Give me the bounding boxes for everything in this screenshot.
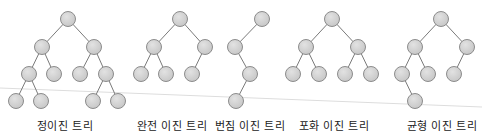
tree-node — [364, 67, 379, 82]
tree-node — [34, 94, 49, 109]
tree-complete-nodes — [134, 12, 213, 82]
edges-layer — [16, 19, 467, 101]
tree-node — [395, 67, 410, 82]
tree-node — [147, 40, 162, 55]
tree-node — [73, 67, 88, 82]
tree-label-full: 정이진 트리 — [37, 117, 94, 133]
tree-full-nodes — [9, 12, 126, 109]
tree-node — [229, 94, 244, 109]
tree-node — [408, 40, 423, 55]
tree-node — [159, 67, 174, 82]
tree-node — [312, 67, 327, 82]
tree-node — [421, 67, 436, 82]
tree-node — [99, 67, 114, 82]
tree-node — [185, 67, 200, 82]
tree-node — [47, 67, 62, 82]
tree-node — [86, 94, 101, 109]
tree-node — [351, 40, 366, 55]
tree-node — [255, 12, 270, 27]
tree-node — [286, 67, 301, 82]
tree-node — [35, 40, 50, 55]
tree-node — [460, 40, 475, 55]
tree-node — [111, 94, 126, 109]
tree-node — [299, 40, 314, 55]
tree-skewed-nodes — [228, 12, 270, 109]
tree-perfect-nodes — [286, 12, 379, 82]
tree-full-edges — [16, 19, 118, 101]
binary-tree-diagram — [0, 0, 482, 136]
tree-label-perfect: 포화 이진 트리 — [299, 117, 370, 133]
tree-node — [9, 94, 24, 109]
tree-node — [338, 67, 353, 82]
tree-node — [434, 12, 449, 27]
tree-node — [134, 67, 149, 82]
tree-node — [22, 67, 37, 82]
tree-node — [61, 12, 76, 27]
nodes-layer — [9, 12, 475, 109]
tree-node — [447, 67, 462, 82]
tree-node — [87, 40, 102, 55]
tree-skewed-edges — [235, 19, 262, 101]
tree-node — [408, 94, 423, 109]
tree-node — [228, 40, 243, 55]
tree-node — [198, 40, 213, 55]
tree-balanced-edges — [402, 19, 467, 101]
tree-label-balanced: 균형 이진 트리 — [407, 117, 478, 133]
tree-label-skewed: 번짐 이진 트리 — [215, 117, 286, 133]
tree-node — [173, 12, 188, 27]
tree-label-complete: 완전 이진 트리 — [137, 117, 208, 133]
tree-node — [325, 12, 340, 27]
tree-node — [243, 67, 258, 82]
